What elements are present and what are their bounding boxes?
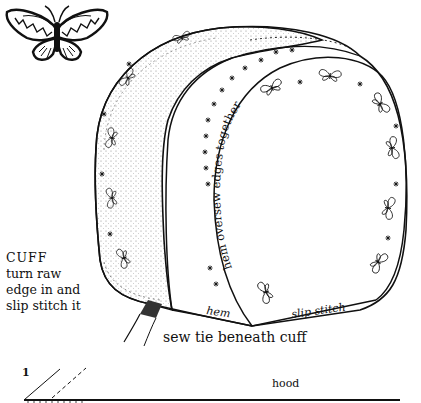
hood-illustration: hem oversew edges together hem slip stit… <box>95 27 407 346</box>
cuff-line-1: turn raw <box>6 266 81 282</box>
cuff-line-3: slip stitch it <box>6 298 81 314</box>
tie <box>124 300 162 346</box>
butterfly-icon <box>7 6 108 60</box>
hood-piece-label: hood <box>272 377 299 390</box>
step-number: 1 <box>22 366 30 379</box>
sew-tie-instruction: sew tie beneath cuff <box>163 329 307 345</box>
pattern-piece-hood <box>24 368 400 403</box>
cuff-title: CUFF <box>6 250 81 266</box>
cuff-line-2: edge in and <box>6 282 81 298</box>
cuff-instruction: CUFF turn raw edge in and slip stitch it <box>6 250 81 314</box>
